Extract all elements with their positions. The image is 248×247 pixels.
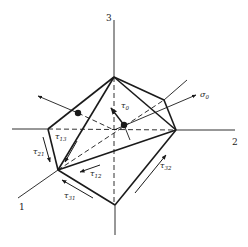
tau-32-label: τ32: [160, 161, 172, 171]
tau-31-label: τ31: [64, 191, 75, 201]
axis-1-label: 1: [19, 202, 25, 212]
axis-3-label: 3: [106, 13, 112, 23]
left-face-normal-arrow: [38, 96, 81, 116]
diagonal-upper-right-line: [164, 80, 187, 100]
octahedral-stress-diagram: σ0 τ0 3 2 1 τ13 τ21 τ12 τ31 τ32: [0, 0, 248, 247]
left-face-dot: [75, 110, 81, 116]
axis-2-label: 2: [232, 137, 238, 147]
tau-21-arrow: [43, 137, 50, 162]
tau-12-label: τ12: [90, 169, 102, 179]
tau-0-label: τ0: [121, 101, 129, 111]
tau-21-label: τ21: [33, 147, 44, 157]
axis-1-line: [18, 170, 58, 198]
octahedron-edges: [48, 77, 176, 205]
tau-13-label: τ13: [55, 132, 67, 142]
sigma-0-label: σ0: [200, 90, 209, 100]
